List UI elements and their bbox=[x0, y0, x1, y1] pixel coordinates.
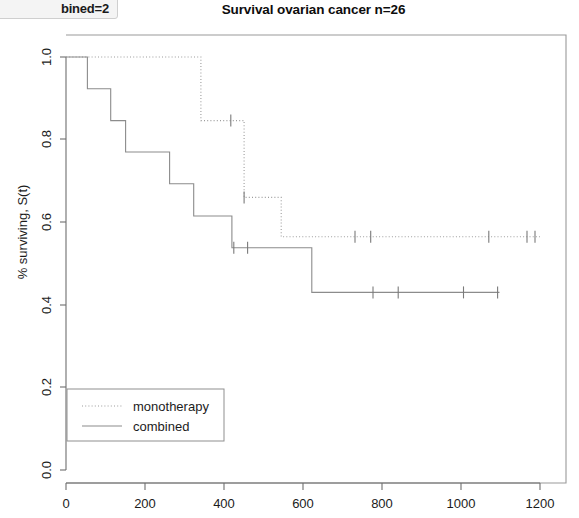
x-tick-label-1000: 1000 bbox=[447, 496, 476, 511]
x-axis-tick-labels: 0 200 400 600 800 1000 1200 bbox=[62, 496, 554, 511]
x-tick-label-800: 800 bbox=[371, 496, 393, 511]
y-tick-label-0.0: 0.0 bbox=[39, 461, 54, 479]
x-tick-label-200: 200 bbox=[134, 496, 156, 511]
y-tick-label-0.4: 0.4 bbox=[39, 296, 54, 314]
survival-plot: 1.0 0.8 0.6 0.4 0.2 0.0 % surviving, S(t… bbox=[0, 0, 579, 518]
y-tick-label-1.0: 1.0 bbox=[39, 48, 54, 66]
y-tick-label-0.8: 0.8 bbox=[39, 130, 54, 148]
y-axis-ticks bbox=[60, 57, 66, 470]
censor-marks-monotherapy bbox=[231, 115, 535, 243]
x-tick-label-0: 0 bbox=[62, 496, 69, 511]
x-axis-ticks bbox=[66, 483, 540, 490]
x-tick-label-1200: 1200 bbox=[526, 496, 555, 511]
chart-legend: monotherapy combined bbox=[67, 389, 224, 441]
y-tick-label-0.6: 0.6 bbox=[39, 213, 54, 231]
y-tick-label-0.2: 0.2 bbox=[39, 378, 54, 396]
y-axis-title: % surviving, S(t) bbox=[15, 185, 30, 280]
censor-marks-combined bbox=[234, 242, 498, 299]
y-axis-tick-labels: 1.0 0.8 0.6 0.4 0.2 0.0 bbox=[39, 48, 54, 479]
x-tick-label-400: 400 bbox=[213, 496, 235, 511]
legend-label-combined: combined bbox=[133, 419, 189, 434]
curve-combined bbox=[66, 57, 500, 292]
curve-monotherapy bbox=[66, 57, 540, 237]
x-tick-label-600: 600 bbox=[292, 496, 314, 511]
legend-label-monotherapy: monotherapy bbox=[133, 399, 209, 414]
